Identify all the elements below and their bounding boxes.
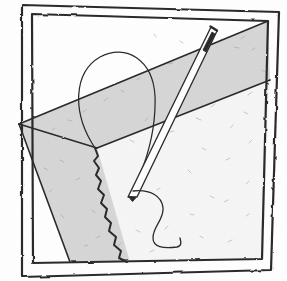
ink-drawing	[0, 0, 287, 281]
paper-grain-overlay	[0, 0, 287, 281]
sketch-canvas	[0, 0, 287, 281]
